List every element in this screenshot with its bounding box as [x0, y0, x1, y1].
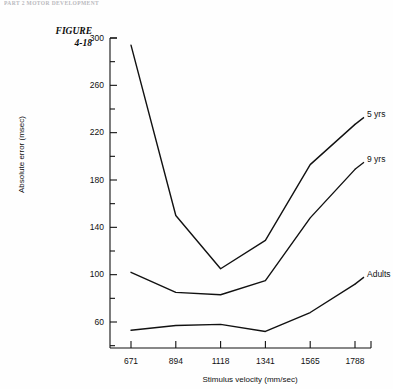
y-axis-tick-label: 220: [74, 127, 104, 137]
x-axis-tick-label: 1341: [245, 356, 285, 366]
y-axis-tick-label: 300: [74, 33, 104, 43]
series-line-adults: [131, 284, 355, 331]
y-axis-tick-label: 60: [74, 317, 104, 327]
series-leader-adults: [355, 277, 364, 284]
x-axis-tick-label: 1565: [290, 356, 330, 366]
x-axis-tick-label: 671: [111, 356, 151, 366]
series-label-5-yrs: 5 yrs: [367, 109, 385, 119]
series-label-adults: Adults: [367, 269, 391, 279]
series-leader-9-yrs: [355, 162, 364, 169]
x-axis-tick-label: 894: [156, 356, 196, 366]
y-axis-title: Absolute error (msec): [17, 90, 26, 220]
series-line-9-yrs: [131, 169, 355, 294]
x-axis-tick-label: 1788: [335, 356, 375, 366]
series-line-5-yrs: [131, 45, 355, 269]
chart-plot-area: [0, 0, 393, 389]
y-axis-tick-label: 100: [74, 269, 104, 279]
y-axis-tick-label: 260: [74, 80, 104, 90]
x-axis-title: Stimulus velocity (mm/sec): [110, 375, 390, 384]
series-label-9-yrs: 9 yrs: [367, 154, 385, 164]
line-chart-svg: [0, 0, 393, 389]
x-axis-tick-label: 1118: [201, 356, 241, 366]
series-leader-5-yrs: [355, 117, 364, 124]
y-axis-tick-label: 180: [74, 175, 104, 185]
y-axis-tick-label: 140: [74, 222, 104, 232]
